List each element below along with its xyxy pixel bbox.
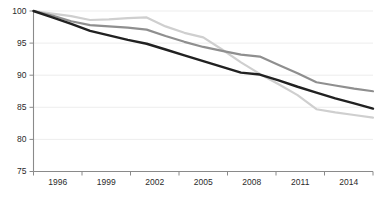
chart-canvas: 7580859095100199619992002200520082011201… — [0, 0, 388, 203]
y-tick-label: 75 — [17, 166, 27, 176]
y-tick-label: 95 — [17, 38, 27, 48]
line-chart: 7580859095100199619992002200520082011201… — [0, 0, 388, 203]
x-tick-label: 2014 — [339, 177, 358, 187]
series-line-series-light-gray — [34, 11, 374, 118]
x-tick-label: 1999 — [97, 177, 116, 187]
y-tick-label: 80 — [17, 134, 27, 144]
x-tick-label: 2011 — [291, 177, 310, 187]
y-tick-label: 100 — [12, 6, 26, 16]
x-tick-label: 2002 — [145, 177, 164, 187]
x-tick-label: 1996 — [48, 177, 67, 187]
series-line-series-dark — [34, 11, 374, 109]
y-axis-ticks: 7580859095100 — [12, 6, 33, 177]
series-line-series-medium-gray — [34, 11, 374, 91]
x-axis-ticks: 1996199920022005200820112014 — [34, 172, 374, 187]
x-tick-label: 2005 — [194, 177, 213, 187]
y-tick-label: 85 — [17, 102, 27, 112]
series-group — [34, 11, 374, 118]
x-tick-label: 2008 — [242, 177, 261, 187]
gridlines — [34, 11, 374, 139]
y-tick-label: 90 — [17, 70, 27, 80]
